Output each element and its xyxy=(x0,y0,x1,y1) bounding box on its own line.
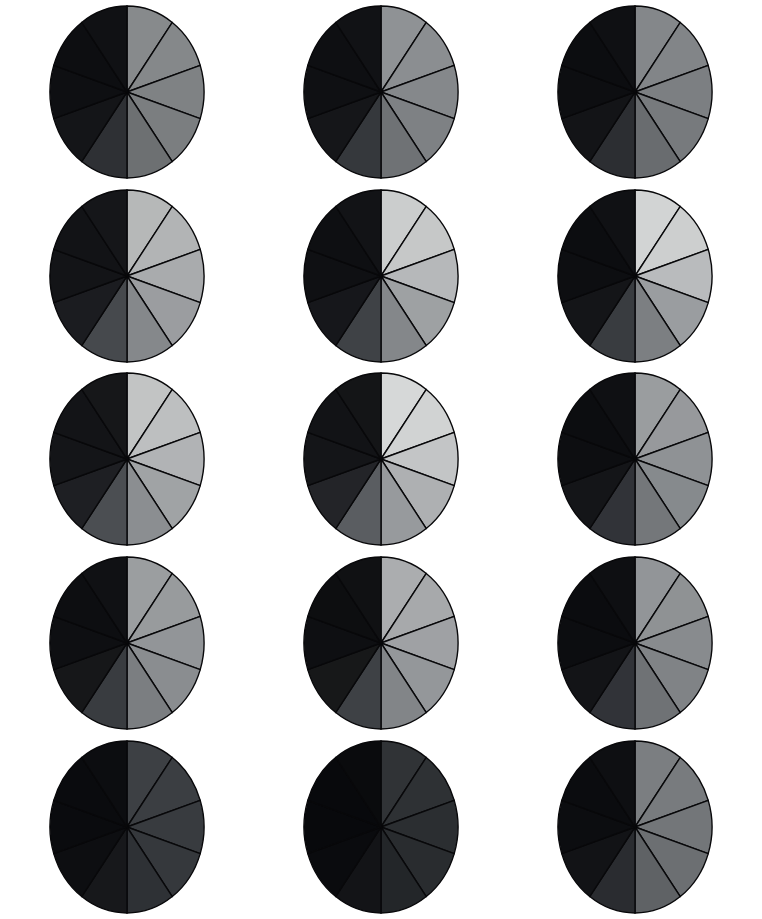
pie-chart-r2c1 xyxy=(46,186,208,366)
pie-chart-cell xyxy=(0,184,254,368)
pie-chart-figure xyxy=(0,0,762,919)
pie-chart-cell xyxy=(508,551,762,735)
pie-chart-r1c3 xyxy=(554,2,716,182)
pie-chart-cell xyxy=(0,551,254,735)
pie-chart-r3c3 xyxy=(554,369,716,549)
pie-chart-cell xyxy=(254,551,508,735)
pie-chart-cell xyxy=(508,735,762,919)
pie-chart-cell xyxy=(508,368,762,552)
pie-chart-cell xyxy=(508,0,762,184)
pie-chart-cell xyxy=(0,368,254,552)
pie-chart-cell xyxy=(254,368,508,552)
pie-chart-r2c2 xyxy=(300,186,462,366)
pie-chart-r5c2 xyxy=(300,737,462,917)
pie-chart-cell xyxy=(254,735,508,919)
pie-chart-cell xyxy=(254,0,508,184)
pie-chart-cell xyxy=(0,735,254,919)
pie-chart-r4c2 xyxy=(300,553,462,733)
pie-chart-cell xyxy=(254,184,508,368)
pie-chart-r4c1 xyxy=(46,553,208,733)
pie-chart-r5c3 xyxy=(554,737,716,917)
pie-chart-r1c1 xyxy=(46,2,208,182)
pie-chart-r2c3 xyxy=(554,186,716,366)
pie-chart-r3c2 xyxy=(300,369,462,549)
pie-chart-r4c3 xyxy=(554,553,716,733)
pie-chart-r1c2 xyxy=(300,2,462,182)
pie-chart-r3c1 xyxy=(46,369,208,549)
pie-chart-grid xyxy=(0,0,762,919)
pie-chart-cell xyxy=(0,0,254,184)
pie-chart-cell xyxy=(508,184,762,368)
pie-chart-r5c1 xyxy=(46,737,208,917)
